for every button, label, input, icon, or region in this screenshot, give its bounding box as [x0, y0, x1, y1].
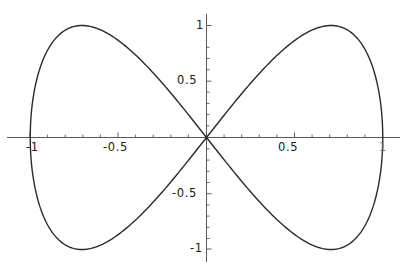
x-tick-label-pos-one: 1 — [379, 142, 387, 154]
x-tick-label-neg-half: -0.5 — [103, 142, 128, 154]
x-tick-label-pos-half: 0.5 — [278, 142, 298, 154]
plot-canvas — [0, 0, 407, 273]
axes-group — [7, 14, 400, 262]
y-tick-label-neg-one: -1 — [190, 243, 203, 255]
x-tick-label-neg-one: -1 — [26, 142, 39, 154]
plot-figure: -1 -0.5 0.5 1 1 0.5 -0.5 -1 — [0, 0, 407, 273]
y-tick-label-neg-half: -0.5 — [172, 188, 197, 200]
y-tick-label-pos-one: 1 — [196, 20, 204, 32]
y-tick-label-pos-half: 0.5 — [177, 75, 197, 87]
